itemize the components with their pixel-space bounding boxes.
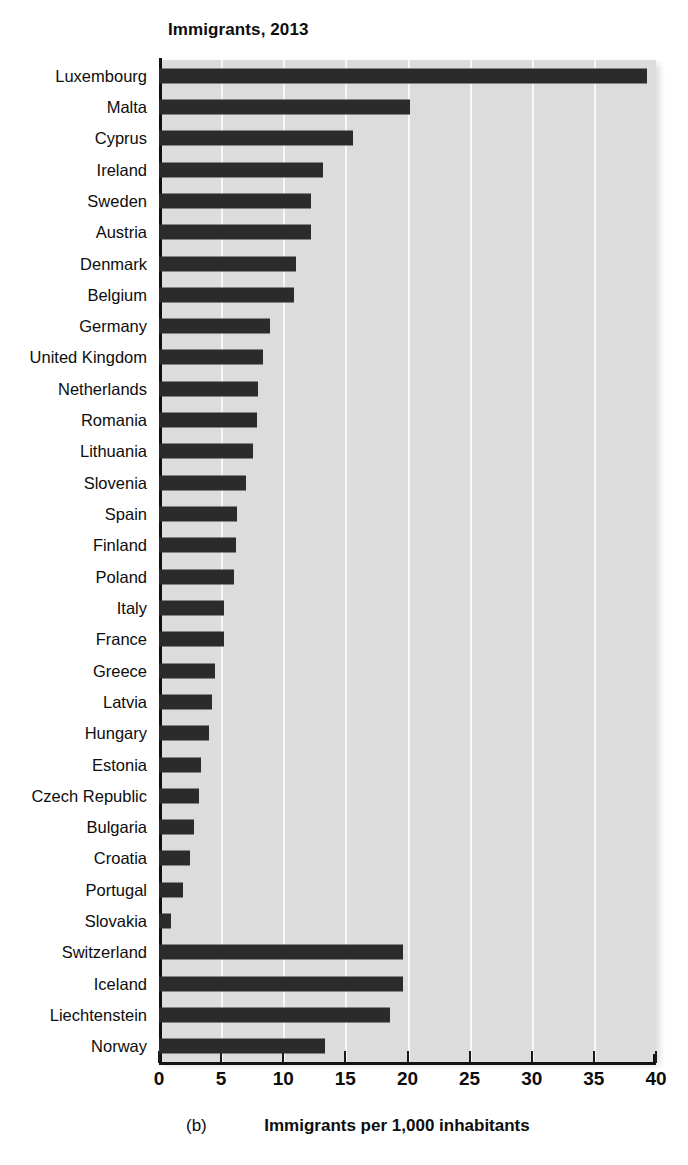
x-axis-tick xyxy=(531,1051,533,1063)
bar xyxy=(159,131,353,146)
x-axis-tick-label: 5 xyxy=(216,1068,227,1090)
chart-title: Immigrants, 2013 xyxy=(168,20,309,40)
gridline xyxy=(283,60,285,1062)
bar xyxy=(159,350,263,365)
category-label: Luxembourg xyxy=(0,67,155,84)
gridline xyxy=(532,60,534,1062)
bar xyxy=(159,632,224,647)
category-label: Spain xyxy=(0,506,155,523)
gridline xyxy=(594,60,596,1062)
bar xyxy=(159,538,236,553)
category-label: Bulgaria xyxy=(0,819,155,836)
category-label: Latvia xyxy=(0,694,155,711)
gridline xyxy=(221,60,223,1062)
bar xyxy=(159,851,190,866)
x-axis-tick xyxy=(469,1051,471,1063)
bar xyxy=(159,726,209,741)
category-label: Finland xyxy=(0,537,155,554)
bar xyxy=(159,287,294,302)
category-label: Netherlands xyxy=(0,381,155,398)
bar xyxy=(159,444,253,459)
bar xyxy=(159,1008,390,1023)
category-label: Austria xyxy=(0,224,155,241)
category-label: Hungary xyxy=(0,725,155,742)
bar xyxy=(159,99,410,114)
panel-tag: (b) xyxy=(186,1116,207,1136)
bar xyxy=(159,193,311,208)
category-label: United Kingdom xyxy=(0,349,155,366)
category-label: Slovenia xyxy=(0,474,155,491)
category-label: Croatia xyxy=(0,850,155,867)
plot-area xyxy=(159,60,656,1062)
category-label: Belgium xyxy=(0,287,155,304)
bar xyxy=(159,569,234,584)
x-axis-tick xyxy=(655,1051,657,1063)
gridline xyxy=(345,60,347,1062)
x-axis-tick xyxy=(407,1051,409,1063)
category-label: Cyprus xyxy=(0,130,155,147)
bar xyxy=(159,507,237,522)
category-label: Italy xyxy=(0,600,155,617)
bar xyxy=(159,413,257,428)
bar xyxy=(159,319,270,334)
bar xyxy=(159,225,311,240)
category-label: Greece xyxy=(0,662,155,679)
category-label: Sweden xyxy=(0,193,155,210)
category-label: Romania xyxy=(0,412,155,429)
x-axis-tick-label: 15 xyxy=(335,1068,356,1090)
bar xyxy=(159,882,183,897)
bar xyxy=(159,694,212,709)
bar xyxy=(159,914,171,929)
category-label: Norway xyxy=(0,1038,155,1055)
category-label: Ireland xyxy=(0,161,155,178)
x-axis-tick-label: 0 xyxy=(154,1068,165,1090)
bar xyxy=(159,788,199,803)
category-label: Poland xyxy=(0,568,155,585)
x-axis-title: Immigrants per 1,000 inhabitants xyxy=(264,1116,529,1136)
bar xyxy=(159,475,246,490)
x-axis-tick-label: 20 xyxy=(397,1068,418,1090)
category-label: Slovakia xyxy=(0,913,155,930)
bar xyxy=(159,162,323,177)
gridline xyxy=(408,60,410,1062)
bar xyxy=(159,256,296,271)
category-label: Lithuania xyxy=(0,443,155,460)
chart-figure: Immigrants, 2013 0510152025303540 Luxemb… xyxy=(0,0,688,1165)
category-label: Estonia xyxy=(0,756,155,773)
x-axis-tick-label: 30 xyxy=(521,1068,542,1090)
category-label: Portugal xyxy=(0,882,155,899)
bar xyxy=(159,945,403,960)
category-label: France xyxy=(0,631,155,648)
category-label: Germany xyxy=(0,318,155,335)
gridline xyxy=(470,60,472,1062)
x-axis-tick-label: 25 xyxy=(459,1068,480,1090)
bar xyxy=(159,68,647,83)
x-axis-tick-label: 10 xyxy=(273,1068,294,1090)
x-axis-tick xyxy=(593,1051,595,1063)
bar xyxy=(159,976,403,991)
bar xyxy=(159,381,258,396)
bar xyxy=(159,1039,325,1054)
x-axis-tick-label: 40 xyxy=(645,1068,666,1090)
category-label: Denmark xyxy=(0,255,155,272)
category-label: Iceland xyxy=(0,975,155,992)
category-label: Malta xyxy=(0,99,155,116)
bar xyxy=(159,757,201,772)
category-label: Liechtenstein xyxy=(0,1007,155,1024)
category-label: Czech Republic xyxy=(0,788,155,805)
x-axis-tick xyxy=(344,1051,346,1063)
plot-inner xyxy=(159,60,656,1062)
x-axis-tick-label: 35 xyxy=(583,1068,604,1090)
bar xyxy=(159,663,215,678)
bar xyxy=(159,820,194,835)
bar xyxy=(159,600,224,615)
category-label: Switzerland xyxy=(0,944,155,961)
